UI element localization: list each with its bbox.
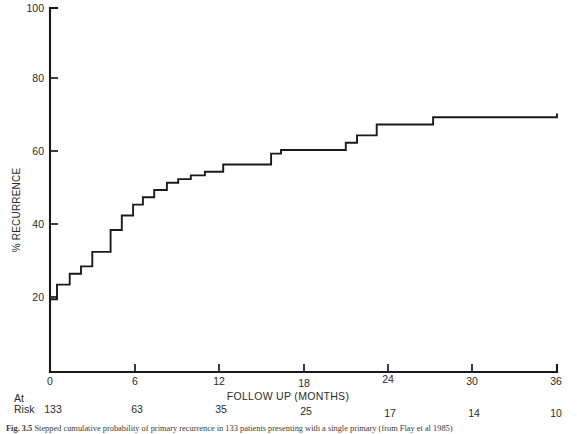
recurrence-step-curve <box>50 114 557 300</box>
x-axis-ticks <box>135 364 472 372</box>
x-tick-label-6: 6 <box>132 375 138 387</box>
at-risk-value-18: 25 <box>300 405 312 417</box>
x-tick-label-30: 30 <box>466 375 478 387</box>
x-tick-label-18: 18 <box>298 377 310 389</box>
at-risk-value-12: 35 <box>215 403 227 415</box>
y-tick-label-60: 60 <box>32 145 44 157</box>
at-risk-label-line2: Risk <box>14 403 35 415</box>
y-tick-label-20: 20 <box>32 291 44 303</box>
at-risk-value-6: 63 <box>131 403 143 415</box>
x-axis-title: FOLLOW UP (MONTHS) <box>227 390 349 402</box>
y-axis-tick-labels: 100 80 60 40 20 <box>26 2 44 303</box>
y-tick-label-40: 40 <box>32 218 44 230</box>
x-tick-label-0: 0 <box>47 375 53 387</box>
at-risk-value-36: 10 <box>550 407 562 419</box>
x-tick-label-24: 24 <box>382 373 394 385</box>
y-axis-title: % RECURRENCE <box>11 168 22 253</box>
figure-caption-label: Fig. 3.5 <box>6 424 32 433</box>
y-tick-label-80: 80 <box>32 72 44 84</box>
y-tick-label-100: 100 <box>26 2 44 14</box>
recurrence-step-chart: 100 80 60 40 20 % RECURRENCE 0 6 12 18 2… <box>0 0 577 434</box>
x-tick-label-36: 36 <box>550 375 562 387</box>
figure-container: 100 80 60 40 20 % RECURRENCE 0 6 12 18 2… <box>0 0 577 434</box>
y-axis-ticks <box>50 78 58 297</box>
at-risk-value-30: 14 <box>468 407 480 419</box>
x-axis-tick-labels: 0 6 12 18 24 30 36 <box>47 373 562 389</box>
at-risk-value-24: 17 <box>384 407 396 419</box>
figure-caption-text: Stepped cumulative probability of primar… <box>34 424 452 433</box>
at-risk-value-0: 133 <box>44 403 62 415</box>
figure-caption: Fig. 3.5 Stepped cumulative probability … <box>6 424 577 434</box>
x-tick-label-12: 12 <box>213 375 225 387</box>
